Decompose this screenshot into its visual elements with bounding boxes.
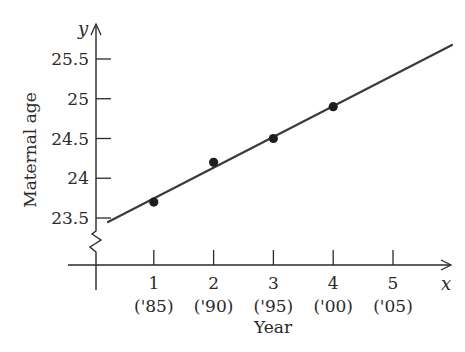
x-tick-label: 5	[388, 273, 399, 293]
data-point	[329, 102, 338, 111]
data-point	[149, 198, 158, 207]
trend-line	[108, 45, 452, 222]
y-axis-line	[90, 26, 101, 290]
x-tick-sublabel: ('90)	[194, 296, 234, 316]
x-tick-sublabel: ('85)	[134, 296, 174, 316]
x-tick-label: 4	[328, 273, 339, 293]
x-tick-label: 3	[268, 273, 279, 293]
x-tick-label: 1	[148, 273, 159, 293]
x-tick-label: 2	[208, 273, 219, 293]
y-tick-label: 23.5	[51, 208, 89, 228]
y-tick-label: 25	[67, 89, 89, 109]
x-axis-variable: x	[441, 273, 451, 294]
scatter-chart: 23.52424.52525.51('85)2('90)3('95)4('00)…	[0, 0, 465, 352]
data-point	[269, 134, 278, 143]
y-tick-label: 24.5	[51, 129, 89, 149]
x-tick-sublabel: ('05)	[373, 296, 413, 316]
y-axis-title: Maternal age	[20, 92, 40, 208]
x-axis-title: Year	[253, 317, 293, 337]
ticks: 23.52424.52525.51('85)2('90)3('95)4('00)…	[51, 49, 413, 316]
data-point	[209, 158, 218, 167]
x-tick-sublabel: ('00)	[313, 296, 353, 316]
x-tick-sublabel: ('95)	[254, 296, 294, 316]
y-axis-variable: y	[77, 18, 89, 39]
y-tick-label: 24	[67, 168, 89, 188]
regression-line	[108, 45, 452, 222]
y-tick-label: 25.5	[51, 49, 89, 69]
